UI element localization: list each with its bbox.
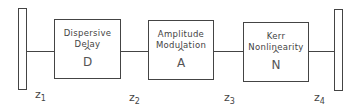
operator-symbol: ^N <box>244 58 308 72</box>
connector-kerr-to-mirror <box>309 51 334 52</box>
kerr-nonlinearity-block: Kerr Nonlinearity ^N <box>243 22 309 82</box>
hat-accent: ^ <box>83 46 91 57</box>
position-label-z3: z3 <box>224 91 235 106</box>
block-title-line1: Dispersive <box>55 28 120 39</box>
amplitude-modulation-block: Amplitude Modulation ^A <box>148 20 214 80</box>
operator-symbol: ^D <box>55 55 120 69</box>
connector-mirror-to-dispersive <box>27 51 54 52</box>
position-label-z4: z4 <box>314 91 325 106</box>
position-label-z2: z2 <box>129 91 140 106</box>
left-mirror <box>18 8 27 90</box>
block-title-line1: Amplitude <box>149 29 213 40</box>
connector-dispersive-to-amplitude <box>121 51 148 52</box>
connector-amplitude-to-kerr <box>214 51 243 52</box>
right-mirror <box>334 9 343 91</box>
block-title-line1: Kerr <box>244 31 308 42</box>
position-label-z1: z1 <box>35 88 46 103</box>
hat-accent: ^ <box>177 47 185 58</box>
dispersive-delay-block: Dispersive Delay ^D <box>54 19 121 79</box>
hat-accent: ^ <box>272 49 280 60</box>
operator-symbol: ^A <box>149 56 213 70</box>
